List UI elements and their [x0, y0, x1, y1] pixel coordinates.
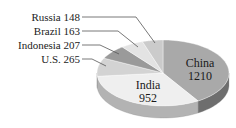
label-brazil: Brazil 163: [4, 25, 80, 37]
label-india-value: 952: [126, 92, 170, 105]
label-russia: Russia 148: [4, 11, 80, 23]
label-indonesia: Indonesia 207: [4, 39, 80, 51]
label-india: India 952: [126, 79, 170, 105]
label-china-value: 1210: [178, 70, 222, 83]
leader-line-russia: [82, 17, 155, 43]
label-china: China 1210: [178, 57, 222, 83]
label-us: U.S. 265: [4, 53, 80, 65]
